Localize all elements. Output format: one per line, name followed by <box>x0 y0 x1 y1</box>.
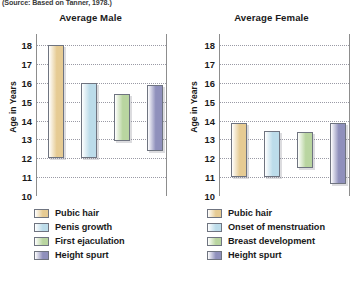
chart-panel-female: Average Female Age in Years 181716151413… <box>181 10 362 294</box>
bar-onset-of-menstruation <box>264 131 280 177</box>
legend-label: Breast development <box>228 236 315 246</box>
legend-item: Height spurt <box>207 248 362 262</box>
bar-height-spurt <box>330 123 346 184</box>
gridline <box>220 102 349 103</box>
y-axis-tick-label: 15 <box>205 96 215 107</box>
gridline <box>37 177 166 178</box>
y-axis-tick-label: 14 <box>205 115 215 126</box>
legend-swatch-icon <box>207 251 222 260</box>
gridline <box>220 121 349 122</box>
y-axis-tick-label: 17 <box>205 59 215 70</box>
legend-label: Pubic hair <box>228 208 272 218</box>
gridline <box>220 83 349 84</box>
bar-pubic-hair <box>231 123 247 178</box>
legend-label: Pubic hair <box>55 208 99 218</box>
chart-panel-male: Average Male Age in Years 18171615141312… <box>0 10 181 294</box>
axis-line-left-female <box>219 34 220 196</box>
legend-swatch-icon <box>34 237 49 246</box>
y-axis-tick-label: 17 <box>22 59 32 70</box>
chart-title-male: Average Male <box>0 12 181 23</box>
y-axis-tick-label: 11 <box>22 172 32 183</box>
legend-label: Height spurt <box>55 250 109 260</box>
legend-label: Height spurt <box>228 250 282 260</box>
bar-breast-development <box>297 132 313 168</box>
bar-first-ejaculation <box>114 94 130 141</box>
y-axis-tick-label: 10 <box>205 191 215 202</box>
gridline <box>37 158 166 159</box>
bar-pubic-hair <box>48 45 64 158</box>
y-axis-tick-label: 16 <box>205 77 215 88</box>
legend-item: First ejaculation <box>34 234 184 248</box>
legend-swatch-icon <box>34 223 49 232</box>
y-axis-tick-label: 18 <box>22 40 32 51</box>
legend-swatch-icon <box>34 251 49 260</box>
charts-container: Average Male Age in Years 18171615141312… <box>0 10 362 294</box>
y-axis-tick-label: 13 <box>205 134 215 145</box>
bar-penis-growth <box>81 83 97 158</box>
legend-item: Breast development <box>207 234 362 248</box>
legend-female: Pubic hairOnset of menstruationBreast de… <box>207 206 362 262</box>
y-axis-title-female: Age in Years <box>189 67 199 147</box>
legend-item: Onset of menstruation <box>207 220 362 234</box>
y-axis-title-male: Age in Years <box>8 67 18 147</box>
y-axis-tick-label: 12 <box>22 153 32 164</box>
legend-label: Penis growth <box>55 222 112 232</box>
legend-swatch-icon <box>207 237 222 246</box>
y-axis-tick-label: 14 <box>22 115 32 126</box>
legend-item: Pubic hair <box>34 206 184 220</box>
legend-item: Pubic hair <box>207 206 362 220</box>
legend-label: First ejaculation <box>55 236 125 246</box>
bar-height-spurt <box>147 85 163 151</box>
legend-item: Height spurt <box>34 248 184 262</box>
plot-area-female: 181716151413121110 <box>219 34 350 196</box>
y-axis-tick-label: 10 <box>22 191 32 202</box>
y-axis-tick-label: 11 <box>205 172 215 183</box>
legend-swatch-icon <box>34 209 49 218</box>
axis-line-right-female <box>349 34 350 196</box>
legend-swatch-icon <box>207 209 222 218</box>
chart-title-female: Average Female <box>181 12 362 23</box>
legend-swatch-icon <box>207 223 222 232</box>
gridline <box>220 45 349 46</box>
legend-label: Onset of menstruation <box>228 222 325 232</box>
axis-line-left-male <box>36 34 37 196</box>
y-axis-tick-label: 16 <box>22 77 32 88</box>
legend-male: Pubic hairPenis growthFirst ejaculationH… <box>34 206 184 262</box>
y-axis-tick-label: 15 <box>22 96 32 107</box>
gridline <box>220 64 349 65</box>
axis-line-right-male <box>166 34 167 196</box>
plot-area-male: 181716151413121110 <box>36 34 167 196</box>
y-axis-tick-label: 12 <box>205 153 215 164</box>
y-axis-tick-label: 13 <box>22 134 32 145</box>
y-axis-tick-label: 18 <box>205 40 215 51</box>
legend-item: Penis growth <box>34 220 184 234</box>
source-note: (Source: Based on Tanner, 1978.) <box>2 0 112 7</box>
